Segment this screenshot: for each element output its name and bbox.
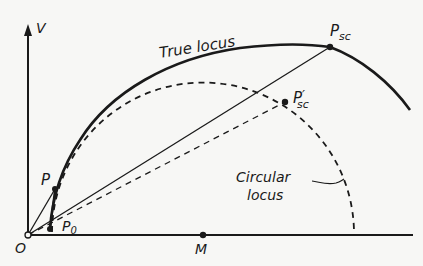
vertical-axis-arrowhead (24, 24, 32, 36)
point-M (200, 232, 206, 238)
label-P: P (41, 171, 51, 189)
label-P0: P0 (62, 218, 77, 236)
label-P0-sub: 0 (70, 225, 76, 236)
point-P (52, 186, 58, 192)
point-Psc (327, 44, 333, 50)
origin-point (25, 232, 31, 238)
label-Psc-prime-sub: sc (297, 98, 309, 111)
line-O-to-Psc (28, 47, 330, 235)
label-circular-locus-line1: Circular (236, 169, 291, 185)
label-Psc-prime: P′sc (293, 87, 309, 111)
label-Psc-sub: sc (339, 30, 351, 43)
point-P0 (47, 226, 53, 232)
label-M: M (195, 241, 207, 257)
label-Psc: Psc (330, 22, 351, 43)
circular-locus-leader (312, 179, 344, 184)
true-locus (50, 45, 410, 230)
point-Psc-prime (282, 99, 288, 105)
circle-diagram: V O M P P0 Psc P′sc True locus Circular … (0, 0, 423, 266)
label-V: V (36, 20, 47, 36)
label-O: O (15, 240, 26, 256)
label-circular-locus-line2: locus (247, 187, 283, 203)
